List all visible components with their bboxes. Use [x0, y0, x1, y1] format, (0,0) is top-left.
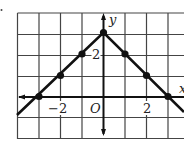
x-tick-label-2: 2: [143, 101, 151, 116]
x-axis-label: x: [179, 81, 184, 96]
origin-label: O: [90, 101, 101, 116]
y-axis-label: y: [108, 12, 117, 27]
y-tick-label-2: 2: [92, 47, 100, 62]
problem-marker: [1, 9, 3, 11]
y-axis-down-arrow-icon: [101, 129, 106, 136]
coordinate-plane: y x O −2 2 2: [0, 0, 184, 143]
y-axis-up-arrow-icon: [101, 13, 106, 20]
x-axis-left-arrow-icon: [18, 95, 25, 100]
x-tick-label-neg2: −2: [48, 101, 67, 116]
